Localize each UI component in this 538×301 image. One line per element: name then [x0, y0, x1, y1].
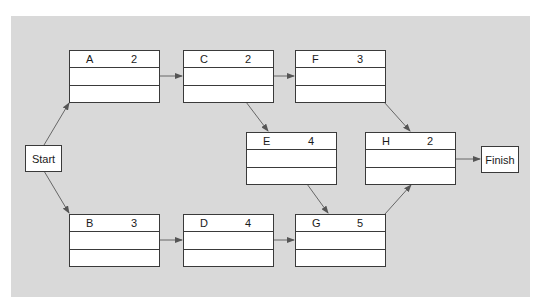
activity-id: E	[263, 135, 270, 147]
activity-row-empty	[184, 86, 273, 102]
activity-row-empty	[296, 232, 385, 249]
activity-id: F	[312, 53, 319, 65]
activity-duration: 3	[357, 53, 363, 65]
activity-duration: 4	[245, 217, 251, 229]
activity-node-g: G5	[295, 214, 386, 267]
activity-row-empty	[366, 150, 455, 167]
activity-row-empty	[247, 150, 336, 167]
activity-row-empty	[247, 168, 336, 184]
activity-id: C	[200, 53, 208, 65]
activity-id: G	[312, 217, 321, 229]
edge-g-h	[385, 185, 411, 214]
activity-row-empty	[70, 232, 159, 249]
activity-node-h: H2	[365, 132, 456, 185]
activity-duration: 4	[308, 135, 314, 147]
activity-row-empty	[296, 250, 385, 266]
edge-e-g	[307, 184, 328, 213]
activity-row-empty	[296, 86, 385, 102]
activity-row-empty	[296, 68, 385, 85]
activity-node-a: A2	[69, 50, 160, 103]
activity-id: H	[382, 135, 390, 147]
activity-duration: 2	[245, 53, 251, 65]
activity-duration: 5	[357, 217, 363, 229]
activity-id: B	[86, 217, 93, 229]
activity-row-empty	[184, 232, 273, 249]
edge-c-e	[246, 102, 268, 131]
activity-duration: 2	[131, 53, 137, 65]
activity-node-e: E4	[246, 132, 337, 185]
activity-duration: 2	[427, 135, 433, 147]
activity-row-empty	[70, 68, 159, 85]
start-label: Start	[32, 153, 55, 165]
activity-row-empty	[184, 68, 273, 85]
activity-row-empty	[366, 168, 455, 184]
edge-f-h	[384, 102, 410, 131]
activity-node-b: B3	[69, 214, 160, 267]
activity-node-f: F3	[295, 50, 386, 103]
start-node: Start	[25, 145, 62, 172]
activity-id: A	[86, 53, 93, 65]
edge-start-a	[44, 103, 69, 145]
edge-start-b	[44, 171, 69, 213]
activity-row-empty	[70, 250, 159, 266]
activity-row-empty	[70, 86, 159, 102]
finish-label: Finish	[485, 154, 514, 166]
activity-duration: 3	[131, 217, 137, 229]
finish-node: Finish	[481, 146, 519, 173]
activity-id: D	[200, 217, 208, 229]
activity-row-empty	[184, 250, 273, 266]
activity-node-d: D4	[183, 214, 274, 267]
activity-node-c: C2	[183, 50, 274, 103]
